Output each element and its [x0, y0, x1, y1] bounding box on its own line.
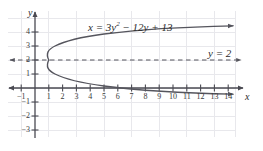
x-axis-title: x: [245, 92, 249, 102]
equation-suffix: − 12y + 13: [120, 21, 173, 33]
y-tick-label-neg2: −2: [14, 112, 30, 120]
x-tick-label-2: 2: [57, 93, 69, 101]
x-tick-label-9: 9: [153, 93, 165, 101]
parabola-graph-figure: −1 1 2 3 4 5 6 7 8 9 10 11 12 13 14 4 3 …: [0, 0, 263, 151]
x-tick-label-14: 14: [220, 93, 236, 101]
y-tick-label-3: 3: [18, 42, 30, 50]
y-tick-label-neg1: −1: [14, 98, 30, 106]
y-tick-label-2: 2: [18, 56, 30, 64]
x-tick-label-7: 7: [126, 93, 138, 101]
x-tick-label-4: 4: [84, 93, 96, 101]
equation-annotation: x = 3y2 − 12y + 13: [88, 22, 172, 33]
y-axis-title: y: [28, 8, 32, 18]
x-tick-label-8: 8: [139, 93, 151, 101]
line-equation-annotation: y = 2: [208, 48, 231, 59]
equation-prefix: x = 3y: [88, 21, 116, 33]
y-tick-label-neg3: −3: [14, 126, 30, 134]
parabola-lower-branch: [47, 60, 233, 94]
x-tick-label-6: 6: [112, 93, 124, 101]
y-tick-label-1: 1: [18, 70, 30, 78]
x-tick-label-5: 5: [98, 93, 110, 101]
x-tick-label-1: 1: [43, 93, 55, 101]
x-tick-label-3: 3: [70, 93, 82, 101]
y-tick-label-4: 4: [18, 28, 30, 36]
